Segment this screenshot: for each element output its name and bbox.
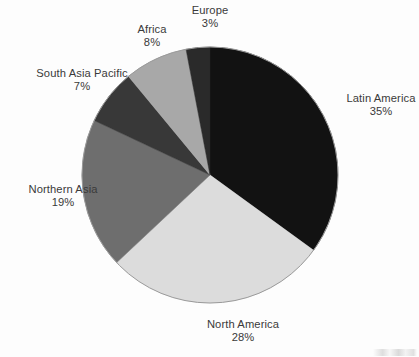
slice-label-northern-asia-name: Northern Asia <box>2 183 124 196</box>
slice-label-south-asia-pacific-value: 7% <box>6 80 158 93</box>
slice-label-north-america: North America 28% <box>182 318 304 345</box>
slice-label-north-america-name: North America <box>182 318 304 331</box>
slice-label-latin-america-value: 35% <box>330 105 419 118</box>
slice-label-northern-asia: Northern Asia 19% <box>2 183 124 210</box>
slice-label-africa-name: Africa <box>94 23 210 36</box>
slice-label-northern-asia-value: 19% <box>2 196 124 209</box>
slice-label-africa: Africa 8% <box>94 23 210 50</box>
slice-label-north-america-value: 28% <box>182 331 304 344</box>
slice-label-latin-america-name: Latin America <box>330 92 419 105</box>
pie-chart-figure: Europe 3% Africa 8% South Asia Pacific 7… <box>0 0 419 357</box>
slice-label-europe-name: Europe <box>152 4 268 17</box>
slice-label-south-asia-pacific: South Asia Pacific 7% <box>6 67 158 94</box>
slice-label-south-asia-pacific-name: South Asia Pacific <box>6 67 158 80</box>
pie-chart-graphic <box>0 0 419 357</box>
slice-label-africa-value: 8% <box>94 36 210 49</box>
slice-label-latin-america: Latin America 35% <box>330 92 419 119</box>
